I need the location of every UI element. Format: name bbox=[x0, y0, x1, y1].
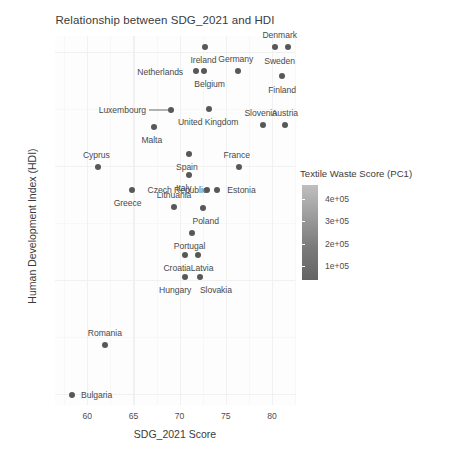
gridline-minor-vertical bbox=[110, 36, 111, 405]
gridline-minor-horizontal bbox=[55, 223, 295, 224]
data-point-label: Estonia bbox=[227, 185, 255, 195]
data-point-label: Bulgaria bbox=[81, 390, 112, 400]
legend-tick-label: 2e+05 bbox=[325, 239, 349, 249]
data-point[interactable] bbox=[182, 252, 188, 258]
data-point[interactable] bbox=[279, 73, 285, 79]
gridline-major-horizontal bbox=[55, 52, 295, 53]
data-point[interactable] bbox=[202, 44, 208, 50]
gridline-minor-vertical bbox=[249, 36, 250, 405]
data-point-label: Slovakia bbox=[200, 285, 232, 295]
data-point-label: Malta bbox=[141, 135, 162, 145]
data-point-label: Poland bbox=[192, 216, 218, 226]
data-point-label: Denmark bbox=[262, 30, 297, 40]
data-point-label: Latvia bbox=[191, 263, 214, 273]
x-tick-label: 70 bbox=[175, 411, 185, 421]
gridline-major-vertical bbox=[180, 36, 181, 405]
data-point[interactable] bbox=[171, 204, 177, 210]
y-axis-title: Human Development Index (HDI) bbox=[26, 106, 38, 346]
legend-tick-mark bbox=[318, 266, 322, 267]
data-point-label: Belgium bbox=[194, 79, 225, 89]
data-point[interactable] bbox=[197, 274, 203, 280]
data-point-label: Romania bbox=[88, 328, 122, 338]
gridline-minor-vertical bbox=[64, 36, 65, 405]
data-point-label: Sweden bbox=[264, 56, 295, 66]
data-point[interactable] bbox=[102, 342, 108, 348]
data-point-label: Netherlands bbox=[137, 67, 183, 77]
data-point[interactable] bbox=[282, 122, 288, 128]
data-point-label: Austria bbox=[272, 108, 298, 118]
plot-panel: IrelandDenmarkSwedenGermanyNetherlandsBe… bbox=[55, 36, 295, 405]
label-leader-line bbox=[149, 110, 168, 111]
data-point[interactable] bbox=[272, 44, 278, 50]
data-point[interactable] bbox=[168, 107, 174, 113]
data-point[interactable] bbox=[189, 230, 195, 236]
legend-tick-mark bbox=[318, 199, 322, 200]
data-point[interactable] bbox=[206, 106, 212, 112]
x-tick-label: 65 bbox=[129, 411, 139, 421]
data-point-label: France bbox=[223, 150, 249, 160]
x-tick-label: 80 bbox=[267, 411, 277, 421]
gridline-major-vertical bbox=[226, 36, 227, 405]
data-point[interactable] bbox=[195, 252, 201, 258]
data-point-label: Luxembourg bbox=[99, 105, 146, 115]
legend-tick-mark bbox=[318, 221, 322, 222]
x-tick-label: 75 bbox=[221, 411, 231, 421]
data-point-label: Croatia bbox=[163, 263, 190, 273]
data-point[interactable] bbox=[182, 274, 188, 280]
data-point[interactable] bbox=[95, 164, 101, 170]
data-point[interactable] bbox=[236, 164, 242, 170]
chart-canvas: Relationship between SDG_2021 and HDI Ir… bbox=[0, 0, 450, 459]
x-tick-label: 60 bbox=[83, 411, 93, 421]
legend-tick-label: 4e+05 bbox=[325, 194, 349, 204]
data-point[interactable] bbox=[151, 124, 157, 130]
data-point[interactable] bbox=[214, 187, 220, 193]
data-point[interactable] bbox=[201, 68, 207, 74]
legend-tick-mark-inner bbox=[302, 266, 305, 267]
data-point-label: Portugal bbox=[174, 241, 206, 251]
gridline-major-vertical bbox=[87, 36, 88, 405]
gridline-major-vertical bbox=[133, 36, 134, 405]
legend-tick-mark-inner bbox=[302, 221, 305, 222]
legend-tick-mark-inner bbox=[302, 244, 305, 245]
gridline-major-horizontal bbox=[55, 280, 295, 281]
x-axis-title: SDG_2021 Score bbox=[55, 428, 295, 440]
legend-tick-label: 3e+05 bbox=[325, 216, 349, 226]
data-point[interactable] bbox=[69, 392, 75, 398]
data-point-label: United Kingdom bbox=[178, 117, 238, 127]
data-point-label: Germany bbox=[218, 54, 253, 64]
data-point[interactable] bbox=[186, 172, 192, 178]
data-point-label: Ireland bbox=[190, 55, 216, 65]
data-point-label: Spain bbox=[176, 162, 198, 172]
data-point[interactable] bbox=[186, 151, 192, 157]
data-point-label: Finland bbox=[268, 85, 296, 95]
page-title: Relationship between SDG_2021 and HDI bbox=[0, 14, 330, 26]
data-point[interactable] bbox=[235, 68, 241, 74]
gridline-minor-vertical bbox=[157, 36, 158, 405]
legend-tick-mark bbox=[318, 244, 322, 245]
data-point-label: Hungary bbox=[159, 285, 191, 295]
data-point-label: Cyprus bbox=[83, 150, 110, 160]
data-point-label: Lithuania bbox=[157, 190, 191, 200]
data-point-label: Greece bbox=[114, 198, 142, 208]
data-point[interactable] bbox=[129, 187, 135, 193]
legend-tick-mark-inner bbox=[302, 199, 305, 200]
data-point[interactable] bbox=[193, 68, 199, 74]
data-point[interactable] bbox=[260, 122, 266, 128]
data-point[interactable] bbox=[200, 205, 206, 211]
legend-title: Textile Waste Score (PC1) bbox=[300, 168, 412, 179]
legend-tick-label: 1e+05 bbox=[325, 261, 349, 271]
data-point[interactable] bbox=[285, 44, 291, 50]
